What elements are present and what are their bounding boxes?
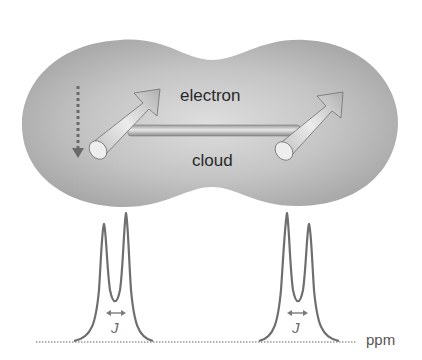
bond-rod bbox=[128, 125, 300, 136]
ppm-axis-label: ppm bbox=[366, 331, 395, 348]
electron-cloud-nmr-diagram: electron cloud J J ppm bbox=[0, 0, 422, 360]
right-coupling-arrow-icon bbox=[287, 310, 308, 316]
right-coupling-label: J bbox=[291, 319, 300, 336]
left-doublet-peaks: J bbox=[74, 213, 153, 341]
cloud-label-electron: electron bbox=[180, 86, 240, 105]
cloud-label-cloud: cloud bbox=[192, 151, 233, 170]
right-doublet-peaks: J bbox=[259, 213, 339, 341]
left-coupling-arrow-icon bbox=[106, 310, 126, 316]
left-coupling-label: J bbox=[110, 319, 119, 336]
